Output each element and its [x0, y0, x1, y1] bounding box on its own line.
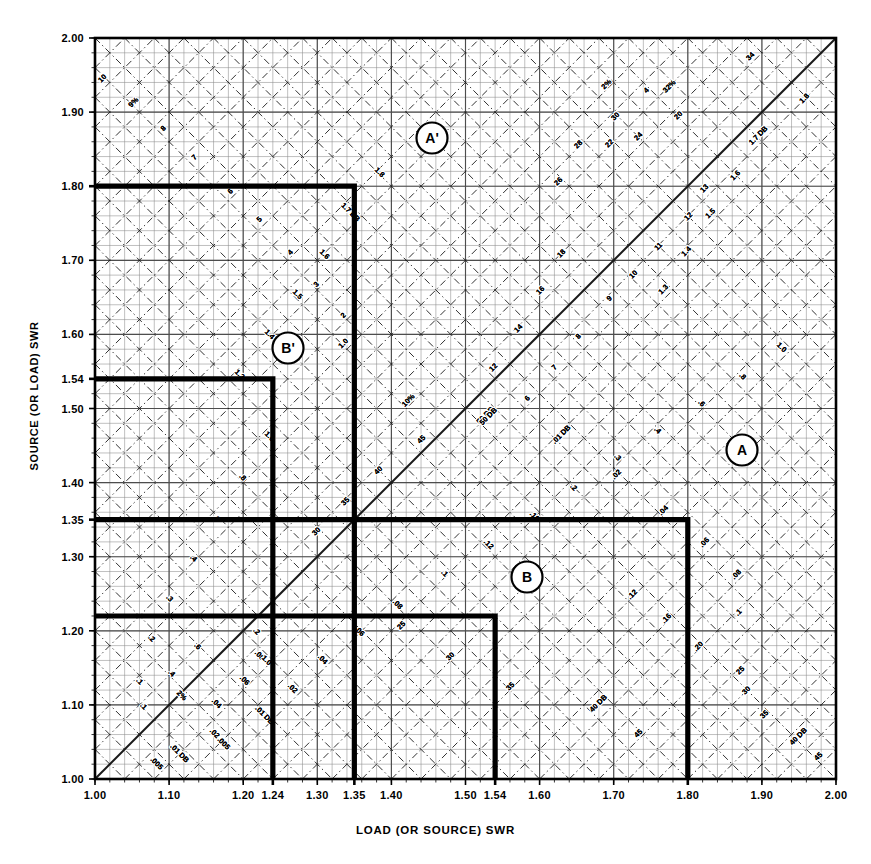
- x-axis-tick-label: 1.24: [262, 789, 285, 801]
- x-axis-tick-label: 1.00: [84, 789, 107, 801]
- x-axis-tick-label: 1.10: [158, 789, 181, 801]
- y-axis-tick-label: 1.30: [61, 551, 84, 563]
- y-axis-tick-label: 1.70: [61, 254, 84, 266]
- x-axis-tick-label: 1.80: [676, 789, 699, 801]
- y-axis-tick-label: 1.20: [61, 625, 84, 637]
- y-axis-tick-label: 1.90: [61, 106, 84, 118]
- x-axis-tick-label: 1.35: [343, 789, 366, 801]
- x-axis-tick-label: 2.00: [825, 789, 848, 801]
- x-axis-tick-label: 1.50: [454, 789, 477, 801]
- y-axis-tick-label: 1.54: [61, 373, 84, 385]
- x-axis-tick-label: 1.70: [602, 789, 625, 801]
- x-axis-tick-label: 1.90: [751, 789, 774, 801]
- y-axis-tick-label: 1.40: [61, 477, 84, 489]
- y-axis-tick-label: 1.50: [61, 403, 84, 415]
- y-axis-tick-label: 1.35: [61, 514, 84, 526]
- nomograph-figure: SOURCE (OR LOAD) SWR LOAD (OR SOURCE) SW…: [0, 0, 871, 864]
- y-axis-tick-label: 1.60: [61, 328, 84, 340]
- y-axis-tick-label: 2.00: [61, 32, 84, 44]
- x-axis-tick-label: 1.30: [306, 789, 329, 801]
- marker-label-B-prime: B': [281, 340, 294, 356]
- x-axis-tick-label: 1.40: [380, 789, 403, 801]
- x-axis-tick-label: 1.54: [484, 789, 507, 801]
- nomograph-plot: .005.005.01 DB.01 DB.02.02.04.04.06.06.0…: [0, 0, 871, 864]
- marker-label-A: A: [737, 442, 747, 458]
- y-axis-tick-label: 1.80: [61, 180, 84, 192]
- x-axis-tick-label: 1.20: [232, 789, 255, 801]
- y-axis-tick-label: 1.10: [61, 699, 84, 711]
- x-axis-tick-label: 1.60: [528, 789, 551, 801]
- marker-label-B: B: [522, 569, 532, 585]
- marker-label-A-prime: A': [425, 130, 438, 146]
- y-axis-tick-label: 1.00: [61, 773, 84, 785]
